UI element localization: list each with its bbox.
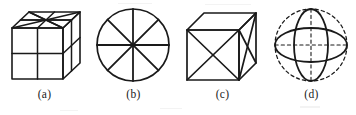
figure-panel-b: (b) <box>89 0 178 115</box>
figure-b-caption: (b) <box>89 87 178 101</box>
figure-a-caption: (a) <box>0 87 89 101</box>
figure-d-caption: (d) <box>267 87 356 101</box>
figure-c-caption: (c) <box>178 87 267 101</box>
cube-top-diagonals <box>12 12 80 28</box>
figure-d-drawing <box>267 4 356 86</box>
vertical-great-circle <box>294 9 328 81</box>
cube-right-diagonals <box>239 13 256 80</box>
figure-c-drawing <box>178 4 267 86</box>
horizontal-great-circle <box>275 28 347 62</box>
cube-front-quarter-lines <box>12 28 63 79</box>
figure-panel-c: (c) <box>178 0 267 115</box>
figure-a-drawing <box>0 4 89 86</box>
cube-right-quarter-lines <box>63 20 80 71</box>
figure-b-drawing <box>89 4 178 86</box>
figure-sheet: (a) (b) <box>0 0 356 115</box>
cube-front-diagonals <box>187 30 239 80</box>
circle-sector-diameters <box>97 9 169 81</box>
sphere-dashed-outline <box>275 9 347 81</box>
cube-top-face <box>187 13 256 30</box>
figure-panel-d: (d) <box>267 0 356 115</box>
figure-panel-a: (a) <box>0 0 89 115</box>
